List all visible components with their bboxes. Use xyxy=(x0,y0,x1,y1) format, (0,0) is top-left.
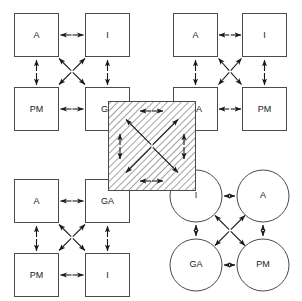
node-top-left-A[interactable]: A xyxy=(15,14,59,57)
arrow-diagonal-tr-bl-end xyxy=(219,72,230,84)
arrow-diagonal-tl-br-start xyxy=(59,225,71,237)
node-label: I xyxy=(106,270,109,280)
node-label: I xyxy=(263,30,266,40)
hatched-square[interactable] xyxy=(109,102,196,191)
arrow-diagonal-tl-br-start xyxy=(59,59,71,71)
node-top-right-PM[interactable]: PM xyxy=(243,88,287,131)
arrow-diagonal-tl-br-start xyxy=(219,59,230,71)
node-label: A xyxy=(33,30,39,40)
center-hatched-overlay[interactable] xyxy=(109,102,196,191)
diagram-canvas: A I PM GA xyxy=(0,0,302,301)
panel-bottom-left: A GA PM I xyxy=(15,180,130,297)
node-label: I xyxy=(195,190,198,200)
node-label: A xyxy=(192,30,198,40)
arrow-diagonal-tr-bl-start xyxy=(231,216,245,230)
node-top-right-A[interactable]: A xyxy=(174,14,218,57)
arrow-diagonal-tr-bl-start xyxy=(231,59,242,71)
node-bottom-right-PM[interactable]: PM xyxy=(237,239,289,291)
arrow-diagonal-tr-bl-end xyxy=(59,72,71,84)
node-bottom-right-GA[interactable]: GA xyxy=(170,239,222,291)
node-top-left-PM[interactable]: PM xyxy=(15,88,59,131)
node-label: PM xyxy=(258,104,272,114)
node-label: GA xyxy=(101,196,114,206)
arrow-diagonal-tr-bl-start xyxy=(73,225,85,237)
arrow-diagonal-tl-br-end xyxy=(73,72,85,84)
node-bottom-left-I[interactable]: I xyxy=(86,254,130,297)
arrow-diagonal-tl-br-end xyxy=(231,231,245,245)
arrow-diagonal-tl-br-end xyxy=(73,238,85,250)
node-label: GA xyxy=(189,259,202,269)
node-bottom-left-A[interactable]: A xyxy=(15,180,59,223)
arrow-diagonal-tl-br-start xyxy=(215,216,229,230)
node-bottom-right-A[interactable]: A xyxy=(237,170,289,222)
node-label: PM xyxy=(30,104,44,114)
node-bottom-left-PM[interactable]: PM xyxy=(15,254,59,297)
arrow-diagonal-tl-br-end xyxy=(231,72,242,84)
arrow-diagonal-tr-bl-start xyxy=(73,59,85,71)
node-label: A xyxy=(33,196,39,206)
node-top-right-I[interactable]: I xyxy=(243,14,287,57)
agil-quadrant-diagram: A I PM GA xyxy=(0,0,302,301)
arrow-diagonal-tr-bl-end xyxy=(215,231,229,245)
node-label: I xyxy=(106,30,109,40)
node-label: PM xyxy=(30,270,44,280)
node-label: PM xyxy=(256,259,270,269)
node-top-left-I[interactable]: I xyxy=(86,14,130,57)
arrow-diagonal-tr-bl-end xyxy=(59,238,71,250)
node-label: A xyxy=(260,190,266,200)
